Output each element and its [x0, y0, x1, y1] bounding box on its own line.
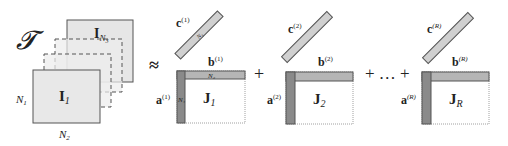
term-2: c(2) b(2) a(2) J2	[267, 12, 353, 124]
dim-n2: N2	[58, 128, 70, 142]
vector-bR	[422, 72, 489, 81]
label-a1: a(1)	[156, 93, 171, 107]
term-r: c(R) b(R) a(R) JR	[401, 13, 489, 124]
vector-a2	[286, 72, 295, 124]
term-1: N₃ c(1) N₂ N₁ b(1) a(1) J1	[156, 11, 245, 123]
plus-1: +	[254, 64, 264, 84]
tensor-stack: 𝓣 IN3 I1 N1 N2	[15, 20, 133, 142]
label-c1: c(1)	[176, 16, 190, 30]
svg-text:N₂: N₂	[207, 72, 216, 80]
label-cR: c(R)	[427, 22, 442, 36]
approx-symbol: ≈	[149, 55, 159, 75]
tensor-symbol: 𝓣	[16, 26, 44, 55]
label-bR: b(R)	[452, 55, 468, 69]
tensor-decomposition-diagram: 𝓣 IN3 I1 N1 N2 ≈ N₃ c(1) N₂ N₁ b(1) a(1)…	[0, 0, 508, 146]
label-b2: b(2)	[318, 55, 334, 69]
label-aR: a(R)	[401, 93, 417, 107]
ellipsis-plus: + … +	[365, 64, 410, 83]
label-b1: b(1)	[208, 55, 224, 69]
svg-text:N₁: N₁	[177, 96, 185, 104]
dim-n1: N1	[15, 93, 27, 107]
label-c2: c(2)	[288, 22, 302, 36]
vector-aR	[422, 72, 431, 124]
vector-b2	[286, 72, 353, 81]
label-a2: a(2)	[267, 93, 282, 107]
